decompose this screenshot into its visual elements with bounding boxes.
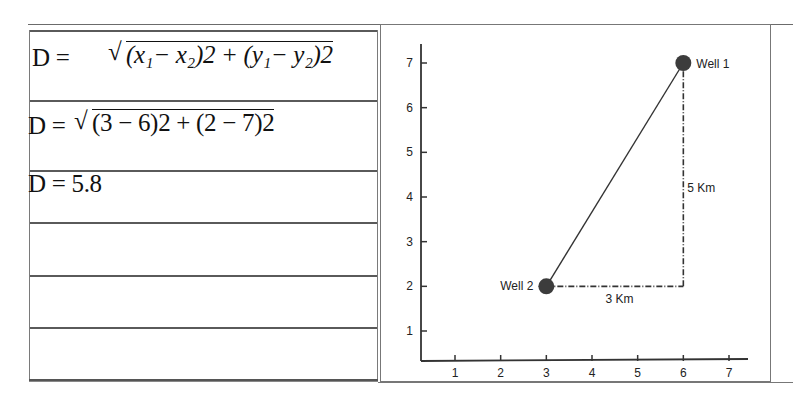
y-tick-label: 5 — [406, 145, 413, 159]
y-tick-label: 1 — [406, 324, 413, 338]
x-tick-label: 7 — [726, 366, 733, 380]
x-axis — [421, 359, 748, 361]
annotations: Well 1Well 23 Km5 Km — [500, 57, 730, 306]
y-tick-label: 3 — [406, 235, 413, 249]
x-tick-label: 6 — [680, 366, 687, 380]
y-tick-label: 2 — [406, 279, 413, 293]
y-tick-label: 4 — [406, 190, 413, 204]
x-tick-label: 4 — [589, 366, 596, 380]
segments — [546, 63, 683, 286]
x-tick-label: 5 — [634, 366, 641, 380]
axes — [421, 44, 748, 361]
y-ticks: 1234567 — [406, 56, 427, 338]
horizontal-distance-label: 3 Km — [605, 292, 633, 306]
distance-chart: 1234567 1234567 Well 1Well 23 Km5 Km — [0, 0, 793, 399]
y-tick-label: 7 — [406, 56, 413, 70]
x-tick-label: 2 — [497, 366, 504, 380]
distance-line — [546, 63, 683, 286]
well-marker — [538, 278, 554, 294]
y-tick-label: 6 — [406, 101, 413, 115]
well2-label: Well 2 — [500, 279, 533, 293]
vertical-distance-label: 5 Km — [687, 181, 715, 195]
well-marker — [675, 55, 691, 71]
x-tick-label: 3 — [543, 366, 550, 380]
well1-label: Well 1 — [696, 57, 729, 71]
x-tick-label: 1 — [452, 366, 459, 380]
